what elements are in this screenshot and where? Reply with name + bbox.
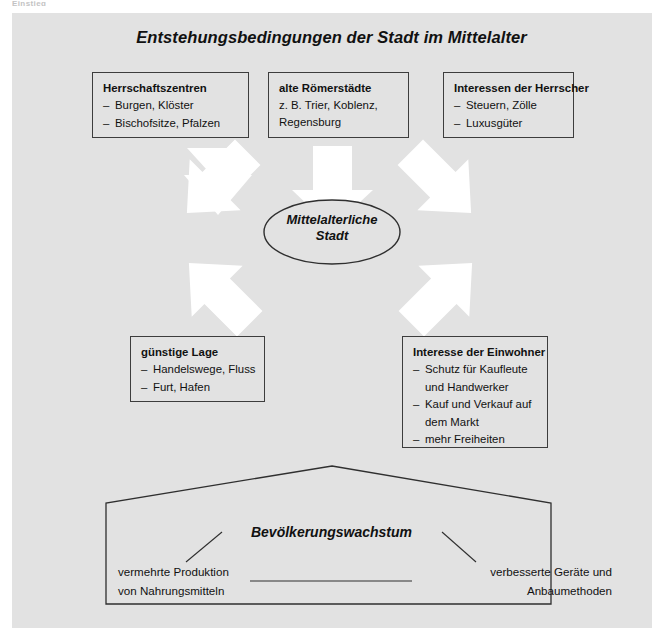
- page-title: Entstehungsbedingungen der Stadt im Mitt…: [0, 28, 663, 47]
- box-heading: Interessen der Herrscher: [454, 80, 564, 97]
- list-item-continuation: dem Markt: [425, 414, 538, 432]
- pentagon-right-line2: Anbaumethoden: [412, 581, 612, 600]
- box-item-list: Handelswege, Fluss Furt, Hafen: [141, 361, 255, 396]
- box-heading: günstige Lage: [141, 344, 255, 361]
- box-text-line: z. B. Trier, Koblenz,: [279, 97, 399, 114]
- pentagon-title: Bevölkerungswachstum: [0, 524, 663, 540]
- list-item-continuation: und Handwerker: [425, 379, 538, 397]
- diagram-stage: Einstieg E: [0, 0, 663, 641]
- box-item-list: Burgen, Klöster Bischofsitze, Pfalzen: [103, 97, 239, 132]
- box-heading: Interesse der Einwohner: [413, 344, 538, 361]
- list-item: Furt, Hafen: [141, 379, 255, 397]
- box-interessen-der-herrscher[interactable]: Interessen der Herrscher Steuern, Zölle …: [443, 72, 574, 138]
- list-item: Schutz für Kaufleuteund Handwerker: [413, 361, 538, 396]
- pentagon-left-line1: vermehrte Produktion: [118, 562, 308, 581]
- list-item: Bischofsitze, Pfalzen: [103, 115, 239, 133]
- box-herrschaftszentren[interactable]: Herrschaftszentren Burgen, Klöster Bisch…: [92, 72, 249, 138]
- pentagon-right-line1: verbesserte Geräte und: [412, 562, 612, 581]
- box-guenstige-lage[interactable]: günstige Lage Handelswege, Fluss Furt, H…: [130, 336, 265, 402]
- box-text-line: Regensburg: [279, 114, 399, 131]
- list-item: Kauf und Verkauf aufdem Markt: [413, 396, 538, 431]
- list-item: mehr Freiheiten: [413, 431, 538, 449]
- list-item: Burgen, Klöster: [103, 97, 239, 115]
- pentagon-right-label: verbesserte Geräte und Anbaumethoden: [412, 562, 612, 600]
- box-heading: alte Römerstädte: [279, 80, 399, 97]
- central-node-label: Mittelalterliche Stadt: [262, 212, 402, 244]
- pentagon-left-label: vermehrte Produktion von Nahrungsmitteln: [118, 562, 308, 600]
- list-item: Steuern, Zölle: [454, 97, 564, 115]
- central-node-line2: Stadt: [262, 228, 402, 244]
- box-item-list: Steuern, Zölle Luxusgüter: [454, 97, 564, 132]
- pentagon-left-line2: von Nahrungsmitteln: [118, 581, 308, 600]
- list-item: Handelswege, Fluss: [141, 361, 255, 379]
- list-item: Luxusgüter: [454, 115, 564, 133]
- central-node-line1: Mittelalterliche: [262, 212, 402, 228]
- box-alte-roemerstaedte[interactable]: alte Römerstädte z. B. Trier, Koblenz, R…: [268, 72, 409, 138]
- box-interesse-der-einwohner[interactable]: Interesse der Einwohner Schutz für Kaufl…: [402, 336, 548, 448]
- cropped-header-text: Einstieg: [12, 0, 46, 6]
- box-item-list: Schutz für Kaufleuteund Handwerker Kauf …: [413, 361, 538, 449]
- box-heading: Herrschaftszentren: [103, 80, 239, 97]
